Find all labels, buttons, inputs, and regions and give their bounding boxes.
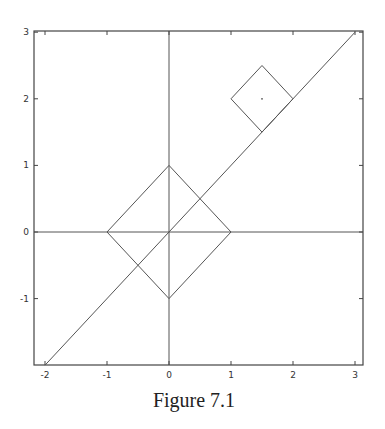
y-tick-label: 0 <box>23 227 29 237</box>
figure-caption: Figure 7.1 <box>153 389 235 412</box>
y-tick-label: 2 <box>23 94 29 104</box>
x-tick-label: -1 <box>103 370 112 380</box>
chart: -2-10123-10123 Figure 7.1 <box>0 0 385 429</box>
tick-labels: -2-10123-10123 <box>20 27 358 380</box>
y-tick-label: -1 <box>20 294 29 304</box>
x-tick-label: 1 <box>228 370 234 380</box>
plot-area <box>34 31 363 365</box>
x-tick-label: -2 <box>41 370 50 380</box>
y-tick-label: 1 <box>23 160 29 170</box>
x-tick-label: 3 <box>352 370 358 380</box>
x-tick-label: 0 <box>166 370 172 380</box>
plot-frame <box>34 31 363 365</box>
x-tick-label: 2 <box>290 370 296 380</box>
y-tick-label: 3 <box>23 27 29 37</box>
small-square-center <box>261 98 263 100</box>
